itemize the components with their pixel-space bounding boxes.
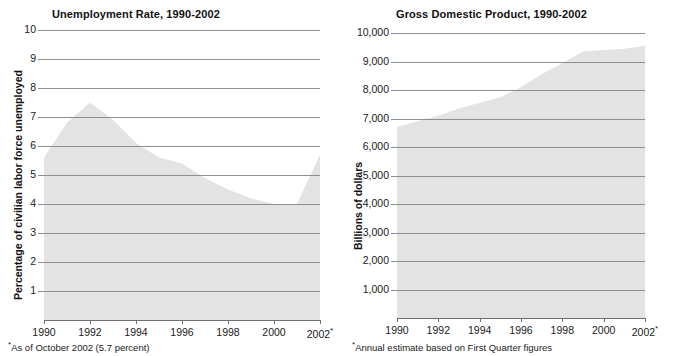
y-tick-label: 6 bbox=[0, 139, 36, 151]
y-tick-label: 9 bbox=[0, 52, 36, 64]
y-tick-mark bbox=[38, 59, 44, 60]
area-series-unemployment bbox=[44, 30, 320, 320]
y-tick-label: 9,000 bbox=[343, 55, 389, 67]
y-tick-label: 4 bbox=[0, 197, 36, 209]
x-tick-label: 1992 bbox=[78, 326, 101, 338]
x-tick-footnote-marker: * bbox=[330, 326, 333, 335]
area-series-gdp bbox=[397, 33, 645, 318]
x-tick-label: 1996 bbox=[170, 326, 193, 338]
y-tick-label: 10 bbox=[0, 23, 36, 35]
y-tick-mark bbox=[391, 261, 397, 262]
x-tick-label: 1996 bbox=[509, 324, 532, 336]
y-tick-mark bbox=[38, 30, 44, 31]
y-tick-mark bbox=[38, 146, 44, 147]
y-tick-label: 2 bbox=[0, 255, 36, 267]
y-tick-mark bbox=[38, 204, 44, 205]
y-tick-label: 6,000 bbox=[343, 140, 389, 152]
y-tick-label: 1 bbox=[0, 284, 36, 296]
chart-title-unemployment: Unemployment Rate, 1990-2002 bbox=[52, 8, 220, 20]
footnote-gdp: *Annual estimate based on First Quarter … bbox=[352, 340, 552, 353]
x-axis-line-unemployment bbox=[44, 320, 321, 321]
y-tick-mark bbox=[38, 233, 44, 234]
y-tick-label: 3 bbox=[0, 226, 36, 238]
x-tick-label: 1994 bbox=[124, 326, 147, 338]
footnote-text-gdp: Annual estimate based on First Quarter f… bbox=[355, 342, 552, 353]
x-tick-label: 1992 bbox=[427, 324, 450, 336]
y-tick-mark bbox=[391, 33, 397, 34]
y-tick-mark bbox=[391, 233, 397, 234]
y-tick-label: 1,000 bbox=[343, 283, 389, 295]
y-tick-mark bbox=[38, 175, 44, 176]
y-tick-mark bbox=[391, 62, 397, 63]
figure-container: Unemployment Rate, 1990-2002 Percentage … bbox=[0, 0, 673, 356]
plot-area-unemployment bbox=[44, 30, 320, 320]
y-tick-label: 8,000 bbox=[343, 83, 389, 95]
y-tick-label: 10,000 bbox=[343, 26, 389, 38]
y-tick-mark bbox=[391, 90, 397, 91]
x-axis-line-gdp bbox=[397, 318, 646, 319]
chart-title-gdp: Gross Domestic Product, 1990-2002 bbox=[396, 8, 587, 20]
x-tick-label: 2002* bbox=[307, 326, 333, 340]
y-tick-mark bbox=[38, 117, 44, 118]
y-tick-mark bbox=[391, 119, 397, 120]
chart-panel-gdp: Gross Domestic Product, 1990-2002 Billio… bbox=[340, 0, 673, 356]
footnote-text-unemployment: As of October 2002 (5.7 percent) bbox=[11, 342, 149, 353]
y-tick-mark bbox=[38, 88, 44, 89]
footnote-unemployment: *As of October 2002 (5.7 percent) bbox=[8, 340, 149, 353]
scan-artifact-text bbox=[60, 0, 62, 6]
x-tick-footnote-marker: * bbox=[655, 324, 658, 333]
y-tick-mark bbox=[38, 291, 44, 292]
x-tick-label: 2000 bbox=[262, 326, 285, 338]
x-tick-label: 1998 bbox=[551, 324, 574, 336]
x-tick-label: 1990 bbox=[32, 326, 55, 338]
y-tick-label: 8 bbox=[0, 81, 36, 93]
x-tick-label: 1998 bbox=[216, 326, 239, 338]
y-tick-label: 5,000 bbox=[343, 169, 389, 181]
y-tick-label: 3,000 bbox=[343, 226, 389, 238]
x-tick-label: 2002* bbox=[632, 324, 658, 338]
y-tick-mark bbox=[38, 262, 44, 263]
y-tick-mark bbox=[391, 204, 397, 205]
x-tick-label: 1990 bbox=[385, 324, 408, 336]
y-tick-mark bbox=[391, 176, 397, 177]
y-tick-label: 7 bbox=[0, 110, 36, 122]
y-tick-label: 2,000 bbox=[343, 254, 389, 266]
area-path-gdp bbox=[397, 33, 645, 318]
area-path-unemployment bbox=[44, 30, 320, 320]
chart-panel-unemployment: Unemployment Rate, 1990-2002 Percentage … bbox=[0, 0, 340, 356]
y-tick-mark bbox=[391, 147, 397, 148]
y-tick-label: 7,000 bbox=[343, 112, 389, 124]
x-tick-label: 1994 bbox=[468, 324, 491, 336]
y-tick-mark bbox=[391, 290, 397, 291]
plot-area-gdp bbox=[397, 33, 645, 318]
x-tick-label: 2000 bbox=[592, 324, 615, 336]
y-tick-label: 5 bbox=[0, 168, 36, 180]
y-tick-label: 4,000 bbox=[343, 197, 389, 209]
